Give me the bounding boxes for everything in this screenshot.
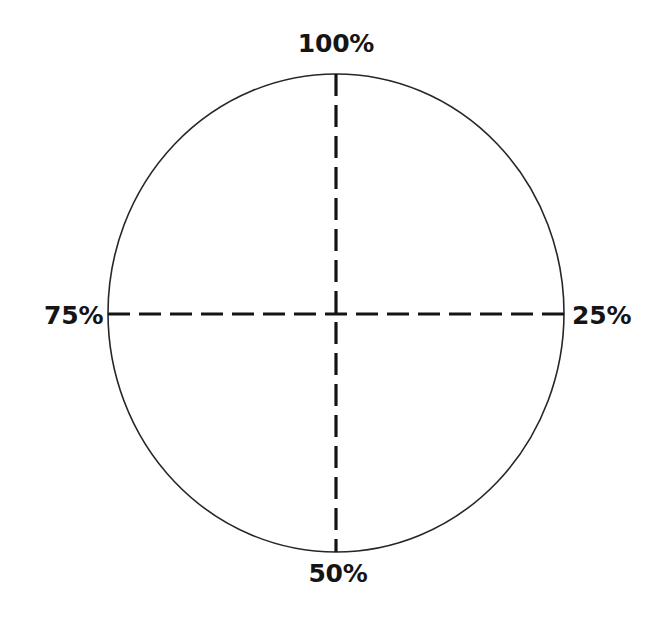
diagram-canvas: 100% 25% 50% 75% bbox=[0, 0, 647, 623]
tick-label-bottom-50-percent: 50% bbox=[0, 561, 647, 586]
tick-label-left-75-percent: 75% bbox=[44, 303, 103, 328]
tick-label-right-25-percent: 25% bbox=[572, 303, 631, 328]
tick-label-top-100-percent: 100% bbox=[0, 31, 647, 56]
